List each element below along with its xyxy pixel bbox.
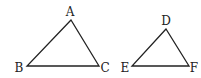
triangle-abc [27,20,99,66]
triangle-diagram: A B C D E F [0,0,201,78]
vertex-label-f: F [190,61,198,75]
triangle-def [132,29,189,66]
vertex-label-e: E [121,61,130,75]
vertex-label-a: A [65,5,75,19]
vertex-label-b: B [15,61,24,75]
vertex-label-d: D [161,14,171,28]
vertex-label-c: C [100,61,109,75]
